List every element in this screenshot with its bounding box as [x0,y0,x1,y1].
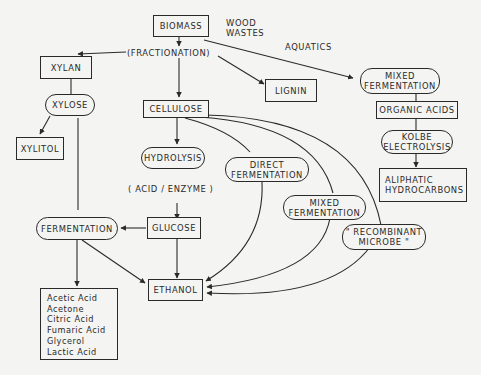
edge-fractionation-lignin [218,56,264,84]
node-glucose: GLUCOSE [147,217,201,239]
label-aquatics: AQUATICS [285,42,332,52]
node-mixed-fermentation-mid: MIXED FERMENTATION [283,195,366,220]
edge-xylose-xylitol [40,116,50,134]
node-recombinant-microbe: " RECOMBINANT MICROBE " [342,224,426,250]
node-direct-fermentation: DIRECT FERMENTATION [225,157,309,182]
node-cellulose: CELLULOSE [143,100,209,118]
product-item: Citric Acid [47,314,117,325]
product-item: Glycerol [47,336,117,347]
label-fractionation: (FRACTIONATION) [126,48,211,58]
node-biomass: BIOMASS [153,15,209,37]
edge-fractionation-xylan [78,52,126,54]
edge-mixed-mid-ethanol [207,218,330,287]
node-aliphatic-hydrocarbons: ALIPHATIC HYDROCARBONS [379,168,467,202]
product-item: Acetone [47,304,117,315]
products-list: Acetic Acid Acetone Citric Acid Fumaric … [40,288,118,360]
edge-direct-ethanol [206,182,262,281]
node-xylan: XYLAN [40,56,92,79]
product-item: Acetic Acid [47,293,117,304]
node-ethanol: ETHANOL [148,279,203,301]
product-item: Lactic Acid [47,347,117,358]
node-fermentation: FERMENTATION [36,217,118,240]
node-hydrolysis: HYDROLYSIS [141,147,205,169]
label-wood-wastes: WOOD WASTES [226,18,264,38]
edge-recombinant-ethanol [207,247,370,294]
node-mixed-fermentation-top: MIXED FERMENTATION [360,68,440,94]
product-item: Fumaric Acid [47,325,117,336]
node-organic-acids: ORGANIC ACIDS [376,101,458,119]
edge-fermentation-ethanol [82,240,145,283]
node-xylose: XYLOSE [45,94,95,116]
node-kolbe-electrolysis: KOLBE ELECTROLYSIS [381,130,453,154]
label-acid-enzyme: ( ACID / ENZYME ) [128,184,213,194]
node-xylitol: XYLITOL [16,137,64,160]
node-lignin: LIGNIN [265,79,317,102]
